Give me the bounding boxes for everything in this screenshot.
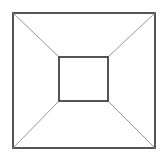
diagonal-top-left-line <box>13 13 59 57</box>
figure-canvas <box>0 0 168 160</box>
diagonal-top-right-line <box>108 13 155 57</box>
diagonal-bottom-left-line <box>13 101 59 148</box>
diagonal-bottom-right-line <box>108 101 155 148</box>
inner-square <box>59 57 108 101</box>
perspective-box-diagram <box>0 0 168 160</box>
